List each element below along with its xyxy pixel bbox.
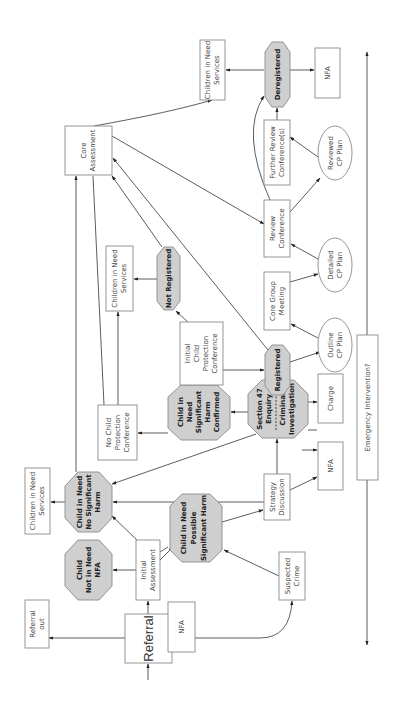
- svg-text:Charge: Charge: [327, 386, 335, 411]
- svg-text:Confirmed: Confirmed: [213, 392, 221, 433]
- node-significant-harm-confirmed[interactable]: Child in Need Significant Harm Confirmed: [168, 385, 230, 440]
- svg-text:Protection: Protection: [202, 336, 210, 371]
- svg-text:Not Registered: Not Registered: [165, 249, 173, 308]
- svg-text:NFA: NFA: [324, 66, 332, 80]
- node-initial-assessment[interactable]: Initial Assessment: [136, 540, 160, 600]
- svg-text:NFA: NFA: [327, 459, 335, 473]
- node-review-conference[interactable]: Review Conference: [264, 200, 290, 257]
- node-core-assessment[interactable]: Core Assessment: [65, 126, 112, 175]
- node-core-group-meeting[interactable]: Core Group Meeting: [264, 272, 290, 330]
- node-detailed-cp-plan[interactable]: Detailed CP Plan: [318, 238, 352, 292]
- node-nfa-2[interactable]: NFA: [318, 442, 343, 490]
- svg-text:Referral: Referral: [29, 610, 37, 638]
- svg-text:Reviewed: Reviewed: [327, 136, 335, 170]
- node-nfa-1[interactable]: NFA: [168, 602, 195, 652]
- svg-text:No Child: No Child: [105, 418, 113, 447]
- svg-text:Core Group: Core Group: [269, 281, 277, 321]
- svg-text:Core: Core: [80, 142, 88, 158]
- svg-text:Discussion: Discussion: [278, 478, 286, 515]
- svg-text:Referral: Referral: [141, 615, 156, 661]
- svg-text:Investigation: Investigation: [288, 383, 296, 435]
- svg-text:Significant Harm: Significant Harm: [200, 495, 208, 561]
- node-children-in-need-services-1[interactable]: Children in Need Services: [25, 468, 50, 534]
- svg-text:Services: Services: [213, 55, 221, 85]
- node-no-significant-harm[interactable]: Child in Need No Significant Harm: [65, 472, 112, 532]
- node-deregistered[interactable]: Deregistered: [265, 42, 290, 107]
- svg-text:Protection: Protection: [114, 415, 122, 450]
- svg-text:Crime: Crime: [293, 566, 301, 587]
- svg-text:Section 47: Section 47: [256, 388, 264, 430]
- node-children-in-need-services-3[interactable]: Children in Need Services: [200, 40, 225, 100]
- node-initial-child-protection-conference[interactable]: Initial Child Protection Conference: [180, 322, 223, 385]
- svg-text:Suspected: Suspected: [284, 558, 292, 595]
- svg-text:Services: Services: [38, 486, 46, 516]
- svg-text:Strategy: Strategy: [269, 482, 277, 512]
- svg-text:CP Plan: CP Plan: [336, 332, 344, 358]
- node-referral[interactable]: Referral: [125, 614, 172, 663]
- node-outline-cp-plan[interactable]: Outline CP Plan: [318, 318, 352, 372]
- svg-text:Need: Need: [186, 402, 194, 422]
- node-suspected-crime[interactable]: Suspected Crime: [279, 552, 305, 600]
- node-emergency-intervention[interactable]: Emergency Intervention?: [357, 335, 378, 480]
- svg-text:Possible: Possible: [190, 511, 198, 544]
- svg-text:Child in Need: Child in Need: [76, 476, 84, 529]
- svg-text:Initial: Initial: [184, 344, 192, 363]
- node-charge[interactable]: Charge: [318, 374, 343, 423]
- svg-text:Review: Review: [269, 216, 277, 241]
- svg-text:Registered: Registered: [274, 348, 282, 391]
- svg-text:Emergency Intervention?: Emergency Intervention?: [364, 363, 372, 451]
- node-not-registered[interactable]: Not Registered: [157, 247, 180, 310]
- svg-text:NFA: NFA: [178, 620, 186, 634]
- svg-text:Children in Need: Children in Need: [29, 472, 37, 530]
- node-nfa-3[interactable]: NFA: [315, 48, 340, 98]
- svg-text:Enquiry: Enquiry: [265, 393, 273, 424]
- svg-text:Child: Child: [193, 345, 201, 363]
- svg-text:NFA: NFA: [94, 562, 102, 578]
- svg-text:Children in Need: Children in Need: [204, 41, 212, 99]
- svg-text:No Significant: No Significant: [85, 474, 93, 530]
- node-reviewed-cp-plan[interactable]: Reviewed CP Plan: [318, 126, 352, 180]
- svg-text:Children in Need: Children in Need: [111, 249, 119, 307]
- svg-text:Assessment: Assessment: [89, 129, 97, 171]
- svg-text:Deregistered: Deregistered: [274, 49, 282, 101]
- svg-text:Further Review: Further Review: [269, 126, 277, 179]
- svg-text:Outline: Outline: [327, 332, 335, 357]
- svg-text:CP Plan: CP Plan: [336, 252, 344, 278]
- svg-text:Meeting: Meeting: [278, 287, 286, 315]
- svg-text:Detailed: Detailed: [327, 250, 335, 279]
- svg-text:Conference: Conference: [123, 412, 131, 452]
- svg-text:Child in: Child in: [177, 397, 185, 427]
- node-possible-significant-harm[interactable]: Child in Need Possible Significant Harm: [170, 494, 222, 562]
- flowchart-canvas: Referral Referral out NFA Initial Assess…: [0, 0, 400, 712]
- svg-text:Harm: Harm: [204, 401, 212, 422]
- svg-text:Not in Need: Not in Need: [85, 547, 93, 594]
- svg-text:Harm: Harm: [94, 491, 102, 512]
- node-further-review-conferences[interactable]: Further Review Conference(s): [264, 120, 290, 185]
- svg-text:Child: Child: [76, 560, 84, 580]
- svg-text:Services: Services: [120, 263, 128, 293]
- node-registered[interactable]: Registered: [265, 345, 290, 395]
- svg-text:out: out: [38, 618, 46, 630]
- svg-text:Child in Need: Child in Need: [180, 502, 188, 555]
- svg-text:CP Plan: CP Plan: [336, 140, 344, 166]
- svg-text:Criminal: Criminal: [279, 393, 287, 426]
- node-no-child-protection-conference[interactable]: No Child Protection Conference: [98, 405, 137, 460]
- svg-text:Initial: Initial: [140, 560, 148, 579]
- svg-text:Significant: Significant: [195, 390, 203, 433]
- svg-text:Conference: Conference: [278, 208, 286, 248]
- svg-text:Assessment: Assessment: [149, 549, 157, 591]
- node-children-in-need-services-2[interactable]: Children in Need Services: [106, 246, 133, 311]
- node-referral-out[interactable]: Referral out: [25, 600, 49, 648]
- node-child-not-in-need[interactable]: Child Not in Need NFA: [65, 540, 112, 600]
- node-strategy-discussion[interactable]: Strategy Discussion: [264, 474, 290, 520]
- svg-text:Conference(s): Conference(s): [278, 128, 286, 177]
- svg-text:Conference: Conference: [211, 333, 219, 373]
